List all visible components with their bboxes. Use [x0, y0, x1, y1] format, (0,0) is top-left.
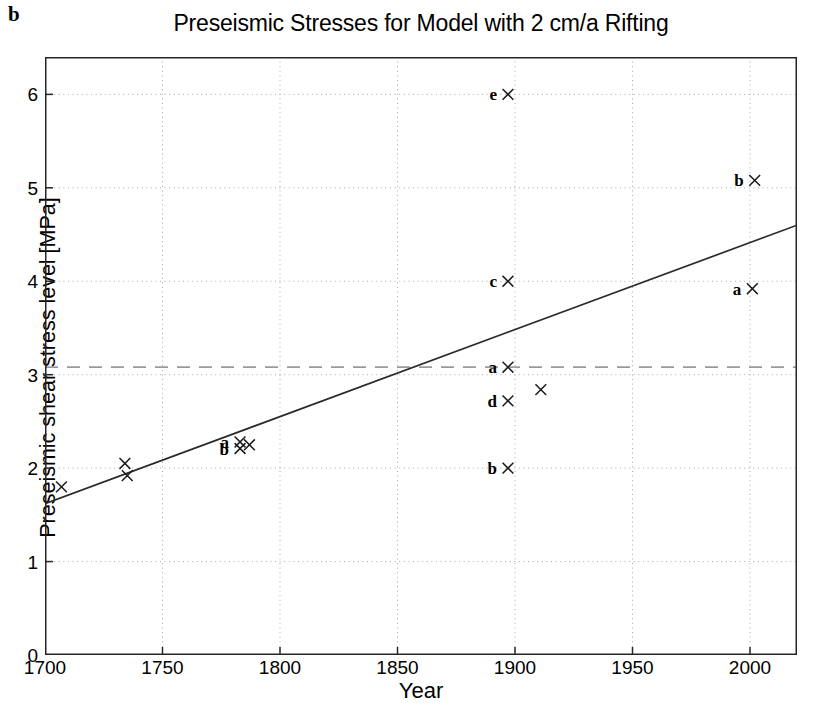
page-title: Preseismic Stresses for Model with 2 cm/…: [45, 10, 797, 37]
x-tick-label: 1800: [240, 658, 320, 677]
data-point-label: e: [489, 86, 497, 103]
x-tick-label: 1700: [5, 658, 85, 677]
data-point-marker: [503, 395, 514, 406]
data-point-label: b: [734, 172, 743, 189]
data-point-marker: [235, 443, 246, 454]
data-point-label: a: [488, 359, 497, 376]
data-point-marker: [244, 439, 255, 450]
data-point-marker: [747, 283, 758, 294]
chart-canvas: [45, 57, 797, 655]
data-point-label: d: [487, 392, 496, 409]
data-point-marker: [503, 276, 514, 287]
x-tick-label: 1900: [475, 658, 555, 677]
data-point-marker: [503, 89, 514, 100]
x-tick-label: 1850: [358, 658, 438, 677]
data-point-marker: [749, 175, 760, 186]
trend-line: [45, 225, 797, 503]
data-point-label: a: [733, 280, 742, 297]
data-point-marker: [120, 458, 131, 469]
y-tick-label: 1: [8, 552, 38, 571]
y-tick-label: 3: [8, 365, 38, 384]
panel-letter: b: [8, 4, 20, 25]
y-gridlines: [45, 94, 797, 561]
data-point-marker: [503, 463, 514, 474]
axis-frame: [46, 58, 797, 655]
data-point-label: b: [220, 440, 229, 457]
x-tick-label: 2000: [710, 658, 790, 677]
data-point-label: b: [487, 460, 496, 477]
x-gridlines: [163, 57, 751, 655]
plot-area: abecadbba: [45, 57, 797, 655]
y-tick-label: 4: [8, 272, 38, 291]
data-point-marker: [56, 481, 67, 492]
data-markers: [56, 89, 760, 492]
data-point-marker: [122, 470, 133, 481]
y-tick-label: 6: [8, 85, 38, 104]
x-tick-labels: 1700175018001850190019502000: [45, 658, 797, 684]
y-tick-labels: 0123456: [0, 57, 38, 655]
data-point-marker: [535, 384, 546, 395]
x-tick-label: 1750: [123, 658, 203, 677]
figure-container: b Preseismic Stresses for Model with 2 c…: [0, 0, 816, 714]
y-tick-label: 5: [8, 178, 38, 197]
data-point-label: c: [489, 273, 497, 290]
x-tick-label: 1950: [593, 658, 673, 677]
y-tick-label: 2: [8, 459, 38, 478]
